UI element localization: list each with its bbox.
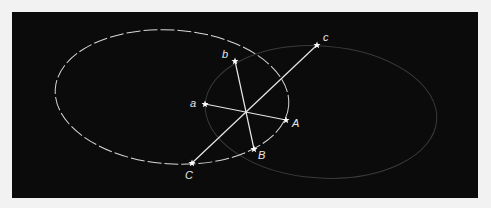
segment-c-C <box>192 45 317 163</box>
segment-b-B <box>235 61 254 149</box>
primary-ellipse <box>51 22 294 172</box>
star-icon-B <box>251 146 258 153</box>
label-b: b <box>222 48 228 60</box>
label-a: a <box>190 97 196 109</box>
ellipse-star-diagram: a b c A B C <box>0 0 491 208</box>
label-A: A <box>291 117 299 129</box>
label-c: c <box>323 31 329 43</box>
label-C: C <box>185 169 193 181</box>
label-B: B <box>258 149 265 161</box>
